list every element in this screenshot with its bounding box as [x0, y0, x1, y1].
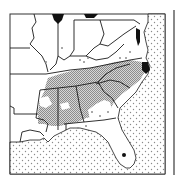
lake-okeechobee-marker — [122, 153, 126, 157]
range-map — [0, 0, 175, 181]
right-edge-divider — [173, 10, 175, 175]
